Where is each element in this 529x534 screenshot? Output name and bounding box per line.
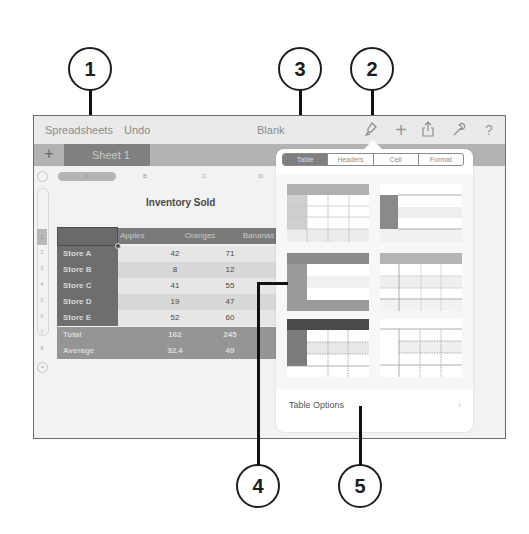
row-label-cell[interactable]: Store C	[57, 278, 118, 294]
table-row: Store D 19 47	[57, 294, 287, 310]
column-header-b[interactable]: B	[139, 172, 151, 181]
table-cell[interactable]: 47	[200, 294, 260, 310]
row-header-4[interactable]: 4	[37, 281, 47, 287]
row-label-cell[interactable]: Average	[57, 343, 118, 359]
sheet-tab-1[interactable]: Sheet 1	[64, 144, 150, 166]
table-style-1[interactable]	[287, 184, 369, 242]
table-cell[interactable]: 60	[200, 310, 260, 326]
document-title: Blank	[257, 124, 285, 136]
callout-2: 2	[350, 47, 394, 91]
table-footer-row: Average 32.4 49 2	[57, 343, 287, 359]
segment-table[interactable]: Table	[283, 154, 327, 165]
add-sheet-button[interactable]: +	[39, 144, 59, 166]
row-label-cell[interactable]: Store E	[57, 310, 118, 326]
callout-4-leader-h	[258, 282, 288, 285]
format-popover: Table Headers Cell Format	[276, 149, 473, 432]
toolbar: Spreadsheets Undo Blank + ?	[34, 116, 505, 144]
help-icon[interactable]: ?	[480, 121, 498, 139]
row-header-3[interactable]: 3	[37, 265, 47, 271]
table-options-label: Table Options	[289, 400, 344, 410]
segment-cell[interactable]: Cell	[373, 154, 418, 165]
table-row: Store B 8 12	[57, 262, 287, 278]
table-row: Store A 42 71	[57, 246, 287, 262]
row-label-cell[interactable]: Store D	[57, 294, 118, 310]
spreadsheets-button[interactable]: Spreadsheets	[45, 124, 113, 136]
callout-4-leader-v	[257, 282, 260, 465]
selected-cell[interactable]	[57, 227, 118, 246]
callout-1: 1	[68, 47, 112, 91]
table-style-3[interactable]	[287, 253, 369, 311]
table-style-grid	[276, 174, 473, 389]
paintbrush-icon[interactable]	[362, 121, 380, 139]
table-style-5[interactable]	[287, 319, 369, 377]
row-header-6[interactable]: 6	[37, 313, 47, 319]
row-header-1[interactable]: 1	[37, 229, 47, 245]
row-label-cell[interactable]: Store A	[57, 246, 118, 262]
callout-5-leader	[359, 406, 362, 465]
column-header-a[interactable]: A	[58, 172, 116, 181]
table-options-row[interactable]: Table Options ›	[276, 392, 473, 418]
row-header-2[interactable]: 2	[37, 249, 47, 255]
segment-headers[interactable]: Headers	[327, 154, 372, 165]
column-header-c[interactable]: C	[198, 172, 210, 181]
row-header-5[interactable]: 5	[37, 297, 47, 303]
header-cell[interactable]: Oranges	[170, 228, 230, 244]
row-header-8[interactable]: 8	[37, 345, 47, 351]
row-label-cell[interactable]: Store B	[57, 262, 118, 278]
format-segmented-control: Table Headers Cell Format	[282, 153, 464, 166]
callout-3: 3	[278, 47, 322, 91]
app-screenshot: Spreadsheets Undo Blank + ? + Sheet 1 A …	[33, 115, 506, 439]
header-cell[interactable]: Apples	[120, 228, 170, 244]
table-cell[interactable]: 12	[200, 262, 260, 278]
table-cell[interactable]: 49	[200, 343, 260, 359]
share-icon[interactable]	[419, 121, 437, 139]
table-row: Store E 52 60	[57, 310, 287, 326]
table-cell[interactable]: 71	[200, 246, 260, 262]
column-header-d[interactable]: D	[255, 172, 267, 181]
table-title[interactable]: Inventory Sold	[146, 197, 215, 208]
row-label-cell[interactable]: Total	[57, 327, 118, 343]
callout-4: 4	[236, 464, 280, 508]
table-style-2[interactable]	[380, 184, 462, 242]
add-row-button[interactable]: =	[37, 362, 48, 373]
chevron-right-icon: ›	[458, 399, 461, 410]
table-row: Store C 41 55	[57, 278, 287, 294]
table-style-4[interactable]	[380, 253, 462, 311]
table-cell[interactable]: 245	[200, 327, 260, 343]
selection-handle[interactable]	[115, 243, 121, 249]
undo-button[interactable]: Undo	[124, 124, 150, 136]
row-header-7[interactable]: 7	[37, 329, 47, 335]
table-style-6[interactable]	[380, 319, 462, 377]
table-footer-row: Total 162 245 1	[57, 327, 287, 343]
wrench-icon[interactable]	[450, 121, 468, 139]
select-all-button[interactable]	[37, 171, 48, 182]
callout-5: 5	[338, 464, 382, 508]
table-cell[interactable]: 55	[200, 278, 260, 294]
plus-icon[interactable]: +	[392, 121, 410, 139]
segment-format[interactable]: Format	[418, 154, 463, 165]
